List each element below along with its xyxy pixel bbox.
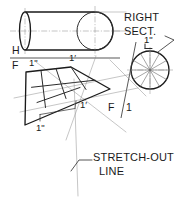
reference-label-f-lower: F bbox=[108, 101, 114, 113]
right-section-callout: RIGHT SECT. bbox=[124, 11, 174, 52]
right-sect-label-line1: RIGHT bbox=[124, 11, 159, 23]
f1-reference-line-group: F 1 bbox=[108, 42, 136, 118]
drawing-sheet: H F bbox=[0, 0, 184, 201]
development-outline bbox=[25, 67, 110, 125]
right-section-view: 1ʺ bbox=[127, 34, 173, 94]
stretch-out-line-group: STRETCH-OUT LINE bbox=[71, 79, 174, 196]
stretch-out-leader-line bbox=[71, 160, 92, 171]
development-label-1-prime-bottom: 1′ bbox=[80, 99, 87, 110]
stretch-out-label-line1: STRETCH-OUT bbox=[93, 151, 174, 163]
development-label-1-prime-top: 1′ bbox=[69, 52, 76, 63]
stretch-out-development: 1ʺ 1′ 1ʺ 1′ bbox=[14, 52, 146, 140]
development-label-1-double-prime-left: 1ʺ bbox=[29, 57, 38, 68]
technical-drawing-canvas: H F bbox=[0, 0, 184, 201]
reference-label-f: F bbox=[12, 59, 18, 71]
development-label-1-double-prime-bottom: 1ʺ bbox=[36, 122, 45, 133]
reference-label-1-lower: 1 bbox=[126, 101, 132, 113]
stretch-out-label-line2: LINE bbox=[99, 165, 124, 177]
right-sect-label-line2: SECT. bbox=[124, 25, 156, 37]
cylinder-top-view bbox=[10, 6, 130, 56]
reference-label-h: H bbox=[12, 44, 20, 56]
right-sect-leader-line bbox=[158, 36, 174, 52]
stretch-out-line bbox=[74, 79, 78, 196]
